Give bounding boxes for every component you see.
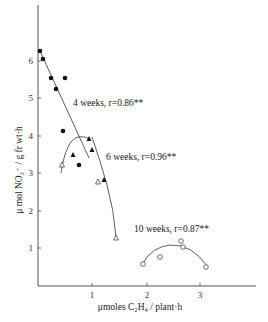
y-tick-1: 1 <box>29 243 34 253</box>
x-tick-2: 2 <box>145 290 150 300</box>
y-tick-2: 2 <box>29 206 34 216</box>
annotation-4-weeks: 4 weeks, r=0.86** <box>73 98 144 108</box>
annotation-6-weeks: 6 weeks, r=0.96** <box>106 152 177 162</box>
y-axis-label: μ mol NO₂⁻ / g fr wt·h <box>14 126 24 214</box>
fit-curve-6-weeks-left <box>61 137 89 173</box>
fit-curve-10-weeks <box>143 245 207 266</box>
y-tick-5: 5 <box>29 93 34 103</box>
chart: 1 2 3 4 5 6 1 2 3 μmoles C₂H₄ / plant·h … <box>0 0 268 322</box>
y-tick-6: 6 <box>29 56 34 66</box>
x-axis-label: μmoles C₂H₄ / plant·h <box>98 302 183 312</box>
y-tick-3: 3 <box>29 168 34 178</box>
x-tick-1: 1 <box>90 290 95 300</box>
x-tick-3: 3 <box>198 290 203 300</box>
series-10-weeks <box>141 239 209 270</box>
y-tick-4: 4 <box>29 131 34 141</box>
series-4-weeks <box>38 49 82 168</box>
annotation-10-weeks: 10 weeks, r=0.87** <box>134 224 209 234</box>
